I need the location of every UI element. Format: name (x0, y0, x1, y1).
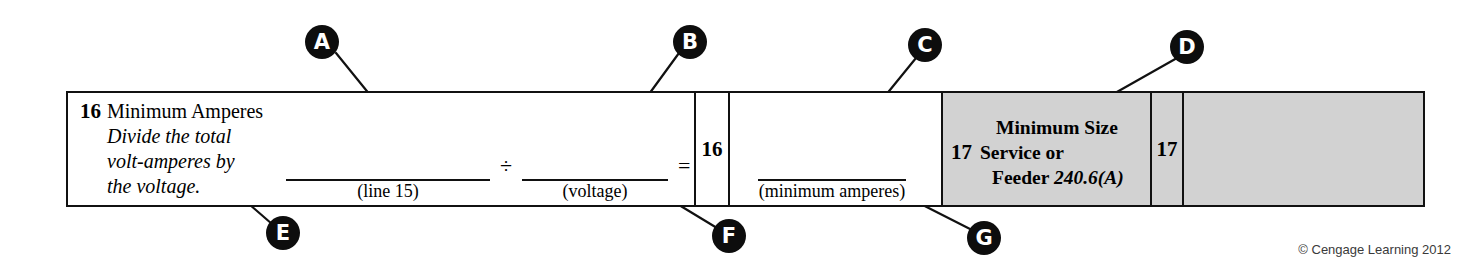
row-17-title-text: Minimum Size Service or Feeder 240.6(A) (978, 115, 1124, 190)
row-16-description-text: Minimum Amperes Divide the total volt-am… (107, 99, 263, 199)
row-17-line-number: 17 (951, 140, 978, 164)
callout-a-label: A (314, 30, 330, 54)
callout-e[interactable]: E (266, 216, 300, 250)
row-17-entry-area[interactable] (1182, 93, 1423, 205)
row-16-line-number: 16 (80, 99, 107, 123)
row-16-instruction-line-1: Divide the total (107, 124, 263, 149)
row-16-answer-box-number: 16 (702, 137, 723, 162)
callout-b-label: B (682, 30, 698, 54)
row-17-title-line-3: Feeder 240.6(A) (980, 165, 1124, 190)
callout-d[interactable]: D (1170, 30, 1204, 64)
row-16-instruction-line-3: the voltage. (107, 174, 263, 199)
worksheet-table: 16 Minimum Amperes Divide the total volt… (66, 91, 1425, 207)
row-16-instruction-line-2: volt-amperes by (107, 149, 263, 174)
row-16-answer-box[interactable]: 16 (694, 93, 728, 205)
callout-f[interactable]: F (712, 219, 746, 253)
line-15-entry-blank[interactable]: (line 15) (286, 149, 490, 201)
callout-g[interactable]: G (967, 221, 1001, 255)
row-17-title-line-2: Service or (980, 140, 1124, 165)
row-16-description-cell: 16 Minimum Amperes Divide the total volt… (68, 93, 694, 205)
callout-f-label: F (722, 224, 736, 248)
callout-e-label: E (276, 221, 290, 245)
minimum-amperes-cell: (minimum amperes) (728, 93, 941, 205)
worksheet-figure: 16 Minimum Amperes Divide the total volt… (0, 0, 1481, 270)
copyright-credit: © Cengage Learning 2012 (1298, 242, 1451, 257)
callout-a[interactable]: A (305, 25, 339, 59)
minimum-amperes-entry-blank[interactable]: (minimum amperes) (758, 149, 906, 201)
row-17-answer-box-number: 17 (1157, 137, 1178, 162)
minimum-amperes-rule (758, 149, 906, 181)
divide-operator: ÷ (490, 153, 522, 201)
row-17-code-reference: 240.6(A) (1054, 167, 1124, 188)
line-15-caption: (line 15) (286, 181, 490, 201)
row-17-title-line-3-text: Feeder (992, 167, 1054, 188)
callout-d-label: D (1178, 35, 1195, 59)
row-17-title-line-1: Minimum Size (980, 115, 1124, 140)
minimum-amperes-caption: (minimum amperes) (758, 181, 906, 201)
callout-c-label: C (917, 33, 932, 57)
callout-g-label: G (975, 226, 992, 250)
row-17-heading: 17 Minimum Size Service or Feeder 240.6(… (951, 99, 1150, 205)
row-16-title: Minimum Amperes (107, 99, 263, 124)
voltage-caption: (voltage) (522, 181, 668, 201)
row-16-equation: (line 15) ÷ (voltage) = (286, 149, 701, 201)
callout-b[interactable]: B (673, 25, 707, 59)
row-17-description-cell: 17 Minimum Size Service or Feeder 240.6(… (941, 93, 1150, 205)
line-15-rule (286, 149, 490, 181)
callout-c[interactable]: C (908, 28, 942, 62)
voltage-entry-blank[interactable]: (voltage) (522, 149, 668, 201)
voltage-rule (522, 149, 668, 181)
row-17-answer-box[interactable]: 17 (1150, 93, 1182, 205)
